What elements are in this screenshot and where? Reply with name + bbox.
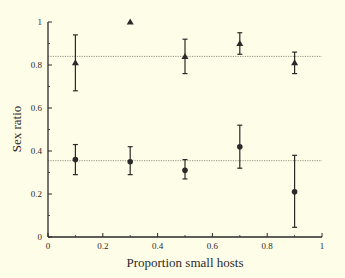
- triangle-marker: [72, 59, 79, 65]
- triangle-marker: [182, 53, 189, 59]
- circle-marker: [182, 168, 188, 174]
- y-tick-label: 0.8: [31, 60, 43, 70]
- triangle-marker: [291, 59, 298, 65]
- circle-marker: [73, 157, 79, 163]
- y-tick-label: 0.6: [31, 103, 43, 113]
- data-series: [72, 19, 298, 228]
- x-tick-label: 0.6: [207, 241, 219, 251]
- triangle-marker: [236, 40, 243, 46]
- x-tick-label: 0.2: [97, 241, 108, 251]
- circle-marker: [127, 159, 133, 165]
- x-tick-label: 1: [320, 241, 325, 251]
- x-axis-label: Proportion small hosts: [126, 255, 243, 270]
- series-triangles: [72, 19, 298, 91]
- y-tick-label: 0: [38, 232, 43, 242]
- triangle-marker: [127, 19, 134, 25]
- y-tick-label: 0.2: [31, 189, 42, 199]
- circle-marker: [292, 189, 298, 195]
- y-tick-label: 0.4: [31, 146, 43, 156]
- circle-marker: [237, 144, 243, 150]
- y-axis-label: Sex ratio: [9, 106, 24, 153]
- x-tick-label: 0.4: [152, 241, 164, 251]
- x-tick-label: 0: [46, 241, 51, 251]
- y-tick-label: 1: [38, 17, 43, 27]
- series-circles: [73, 125, 298, 227]
- x-tick-label: 0.8: [262, 241, 274, 251]
- chart: 00.20.40.60.8100.20.40.60.81 Proportion …: [0, 0, 345, 278]
- axes: 00.20.40.60.8100.20.40.60.81: [31, 17, 325, 251]
